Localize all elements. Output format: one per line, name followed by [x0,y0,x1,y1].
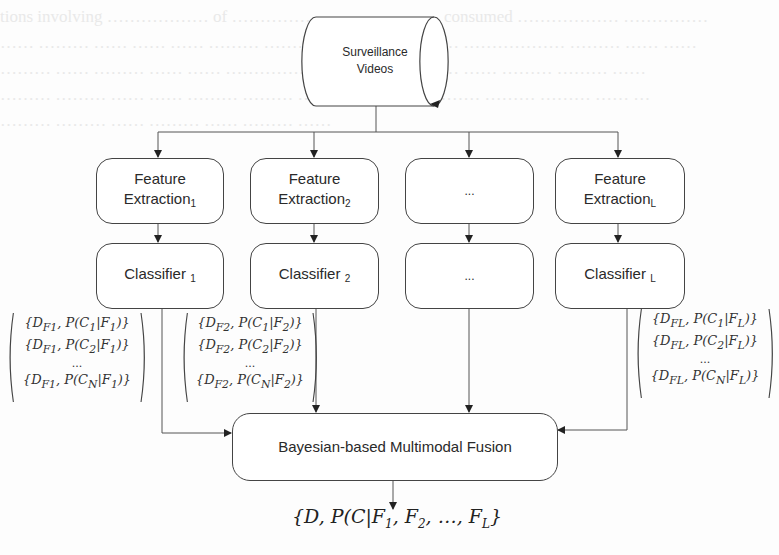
feature-extraction-ellipsis-box: ... [405,158,534,224]
feature-extraction-1-label: Feature [124,169,196,189]
matrix-row: {DF1, P(C1|F1)} [6,314,148,336]
matrix-ellipsis: ... [6,357,148,371]
feature-extraction-1-label2: Extraction [124,190,191,207]
feature-extraction-L-box: Feature ExtractionL [555,158,685,224]
classifier-L-label: Classifier [584,265,650,282]
left-paren: ( [181,311,191,399]
classifier-1-subscript: 1 [190,273,196,284]
feature-extraction-2-label2: Extraction [278,190,345,207]
feature-extraction-2-box: Feature Extraction2 [250,158,379,224]
matrix-ellipsis: ... [180,357,320,371]
fusion-output-label: {D, P(C|F1, F2, …, FL} [292,505,502,531]
right-paren: ) [310,311,320,399]
classifier-ellipsis-box: ... [405,243,534,309]
surveillance-videos-source: Surveillance Videos [320,44,430,78]
matrix-ellipsis: ... [634,353,776,367]
matrix-row: {DF2, P(C1|F2)} [180,314,320,336]
classifier-ellipsis-label: ... [464,266,474,286]
feature-extraction-L-subscript: L [651,198,657,209]
classifier-L-subscript: L [650,273,656,284]
source-label-line2: Videos [320,61,430,78]
classifier-1-box: Classifier 1 [96,243,224,309]
bayesian-fusion-label: Bayesian-based Multimodal Fusion [278,437,511,457]
left-paren: ( [635,307,645,395]
left-paren: ( [7,311,17,399]
source-label-line1: Surveillance [320,44,430,61]
feature-extraction-1-subscript: 1 [191,198,197,209]
feature-extraction-ellipsis-label: ... [464,181,474,201]
classifier-1-output-matrix: ( ) {DF1, P(C1|F1)} {DF1, P(C2|F1)} ... … [6,314,148,402]
classifier-2-output-matrix: ( ) {DF2, P(C1|F2)} {DF2, P(C2|F2)} ... … [180,314,320,402]
matrix-row: {DFL, P(CN|FL)} [634,367,776,389]
matrix-row: {DFL, P(C2|FL)} [634,332,776,354]
right-paren: ) [766,307,776,395]
feature-extraction-2-subscript: 2 [345,198,351,209]
classifier-2-label: Classifier [279,265,345,282]
classifier-L-output-matrix: ( ) {DFL, P(C1|FL)} {DFL, P(C2|FL)} ... … [634,310,776,398]
matrix-row: {DF2, P(CN|F2)} [180,371,320,393]
matrix-row: {DF2, P(C2|F2)} [180,336,320,358]
feature-extraction-L-label: Feature [584,169,656,189]
feature-extraction-1-box: Feature Extraction1 [96,158,224,224]
feature-extraction-L-label2: Extraction [584,190,651,207]
matrix-row: {DF1, P(C2|F1)} [6,336,148,358]
classifier-2-subscript: 2 [345,273,351,284]
matrix-row: {DF1, P(CN|F1)} [6,371,148,393]
feature-extraction-2-label: Feature [278,169,350,189]
matrix-row: {DFL, P(C1|FL)} [634,310,776,332]
bayesian-fusion-box: Bayesian-based Multimodal Fusion [232,413,558,481]
classifier-1-label: Classifier [124,265,190,282]
classifier-L-box: Classifier L [555,243,685,309]
right-paren: ) [138,311,148,399]
